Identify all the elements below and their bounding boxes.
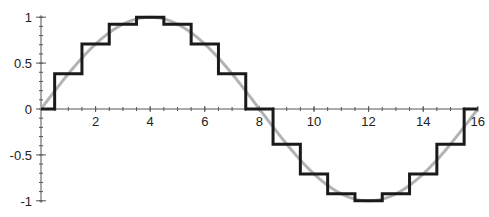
x-tick-label: 6 — [201, 114, 208, 129]
x-tick-label: 16 — [471, 114, 485, 129]
x-tick-label: 2 — [92, 114, 99, 129]
y-tick-label: 0 — [25, 102, 32, 117]
x-tick-label: 12 — [361, 114, 375, 129]
x-tick-label: 8 — [256, 114, 263, 129]
y-tick-label: -0.5 — [10, 148, 32, 163]
x-tick-label: 10 — [307, 114, 321, 129]
y-tick-label: 0.5 — [14, 56, 32, 71]
y-tick-label: 1 — [25, 10, 32, 25]
x-tick-label: 4 — [147, 114, 154, 129]
chart-svg: 10.50-0.5-1246810121416 — [0, 0, 489, 217]
y-tick-label: -1 — [20, 194, 32, 209]
x-tick-label: 14 — [416, 114, 430, 129]
chart-area: 10.50-0.5-1246810121416 — [0, 0, 489, 217]
